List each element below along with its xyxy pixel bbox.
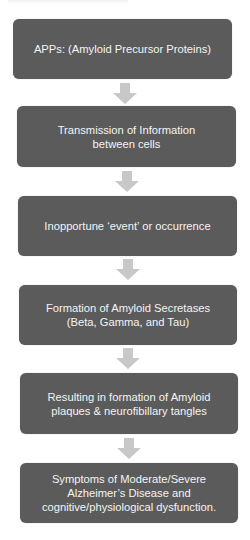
flow-step-3: Inopportune ‘event’ or occurrence (18, 196, 237, 256)
flow-step-4: Formation of Amyloid Secretases (Beta, G… (19, 285, 237, 345)
flow-step-label: APPs: (Amyloid Precursor Proteins) (34, 42, 211, 56)
flow-step-2: Transmission of Information between cell… (17, 106, 236, 167)
down-arrow-icon (116, 259, 140, 280)
flow-step-5: Resulting in formation of Amyloid plaque… (20, 373, 238, 434)
down-arrow-icon (113, 83, 137, 104)
cropped-top-fragment (8, 0, 128, 4)
down-arrow-icon (116, 348, 140, 369)
flow-step-label: Formation of Amyloid Secretases (Beta, G… (46, 301, 210, 329)
flow-step-6: Symptoms of Moderate/Severe Alzheimer’s … (20, 463, 238, 523)
down-arrow-icon (115, 171, 139, 192)
flow-step-label: Symptoms of Moderate/Severe Alzheimer’s … (42, 472, 216, 514)
flow-step-1: APPs: (Amyloid Precursor Proteins) (13, 19, 232, 79)
flow-step-label: Resulting in formation of Amyloid plaque… (48, 390, 211, 418)
flow-step-label: Transmission of Information between cell… (58, 123, 196, 151)
flow-step-label: Inopportune ‘event’ or occurrence (44, 219, 210, 233)
down-arrow-icon (117, 438, 141, 459)
